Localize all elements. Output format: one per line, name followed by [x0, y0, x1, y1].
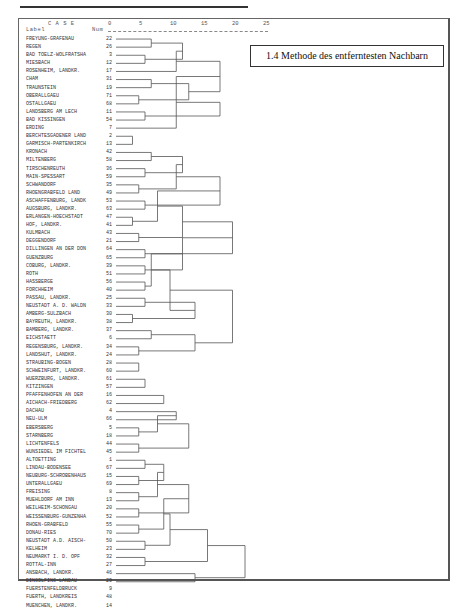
case-row: FUERTH, LANDKREIS48	[26, 593, 116, 601]
case-number: 48	[96, 593, 112, 601]
case-row: FUERSTENFELDBRUCK9	[26, 585, 116, 593]
case-number: 9	[96, 585, 112, 593]
case-label: MUENCHEN, LANDKR.	[26, 603, 77, 609]
case-label: FUERSTENFELDBRUCK	[26, 586, 77, 592]
case-number: 14	[96, 602, 112, 610]
case-label: FUERTH, LANDKREIS	[26, 594, 77, 600]
case-row: MUENCHEN, LANDKR.14	[26, 602, 116, 610]
